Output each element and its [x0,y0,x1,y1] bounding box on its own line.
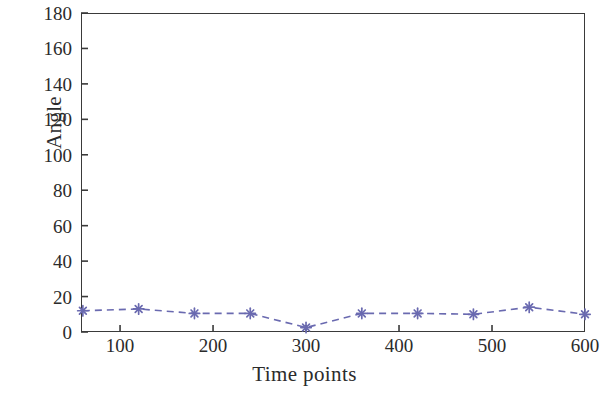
x-tick-label-text: 200 [199,336,228,355]
x-tick-label-text: 500 [478,336,507,355]
y-tick-label-text: 140 [44,74,73,93]
data-point-marker [357,308,367,318]
y-tick-label-text: 100 [44,145,73,164]
data-point-marker [468,309,478,319]
x-tick-label-text: 400 [385,336,414,355]
data-series-group [78,302,591,333]
y-tick-label-text: 180 [44,4,73,23]
y-tick-marks [81,13,88,332]
data-point-marker [301,322,311,332]
data-point-marker [133,304,143,314]
y-tick-label-text: 20 [53,287,72,306]
x-tick-label-text: 100 [106,336,135,355]
y-tick-label-text: 160 [44,39,73,58]
y-tick-label-text: 40 [53,252,72,271]
x-tick-label-text: 600 [571,336,600,355]
data-point-marker [78,306,88,316]
y-tick-label-text: 80 [53,181,72,200]
data-point-marker [189,308,199,318]
y-tick-label-text: 120 [44,110,73,129]
y-tick-label-text: 0 [63,323,73,342]
data-point-marker [524,302,534,312]
data-point-marker [580,309,590,319]
chart-figure: Angle 020406080100120140160180 100200300… [0,0,609,397]
data-point-marker [245,308,255,318]
x-tick-label-text: 300 [292,336,321,355]
y-tick-label-text: 60 [53,216,72,235]
plot-area [81,13,585,332]
data-point-marker [412,308,422,318]
x-axis-title: Time points [0,362,609,387]
